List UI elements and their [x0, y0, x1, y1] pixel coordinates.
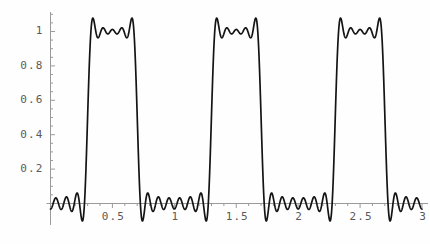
y-tick-label: 0.6 [20, 94, 43, 105]
y-tick-label: 0.2 [20, 163, 43, 174]
y-tick-label: 0.8 [20, 60, 43, 71]
data-curve-path [51, 18, 423, 221]
x-tick-label: 2.5 [344, 211, 378, 222]
x-tick-label: 3 [406, 211, 430, 222]
x-tick-label: 1 [158, 211, 192, 222]
tick-layer [51, 14, 423, 208]
plot-canvas [0, 0, 430, 244]
plot-root: 0.20.40.60.81 0.511.522.53 [0, 0, 430, 244]
x-tick-label: 1.5 [220, 211, 254, 222]
axis-layer [47, 12, 429, 225]
y-tick-label: 0.4 [20, 129, 43, 140]
x-tick-label: 0.5 [96, 211, 130, 222]
x-tick-label: 2 [282, 211, 316, 222]
y-tick-label: 1 [36, 25, 44, 36]
